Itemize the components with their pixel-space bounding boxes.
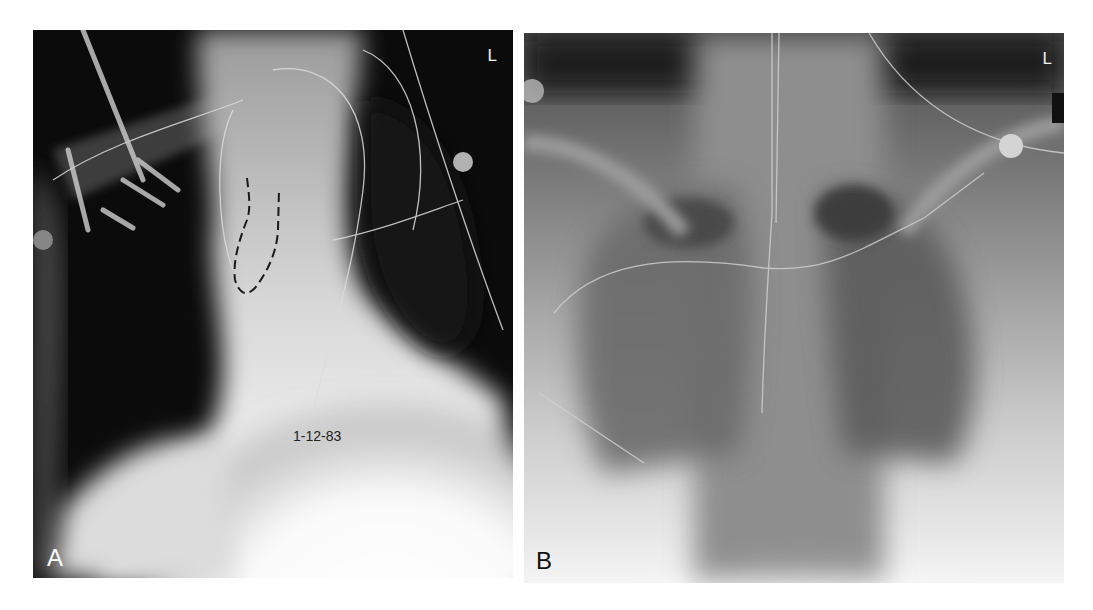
date-label: 1-12-83 bbox=[293, 428, 341, 444]
xray-panel-a: L 1-12-83 A bbox=[33, 30, 513, 578]
panel-letter-b: B bbox=[536, 547, 552, 575]
panel-letter-a: A bbox=[47, 544, 63, 572]
side-marker-l: L bbox=[488, 46, 497, 66]
xray-image-b bbox=[524, 33, 1064, 583]
xray-image-a bbox=[33, 30, 513, 578]
side-marker-l: L bbox=[1043, 49, 1052, 69]
xray-panel-b: L B bbox=[524, 33, 1064, 583]
